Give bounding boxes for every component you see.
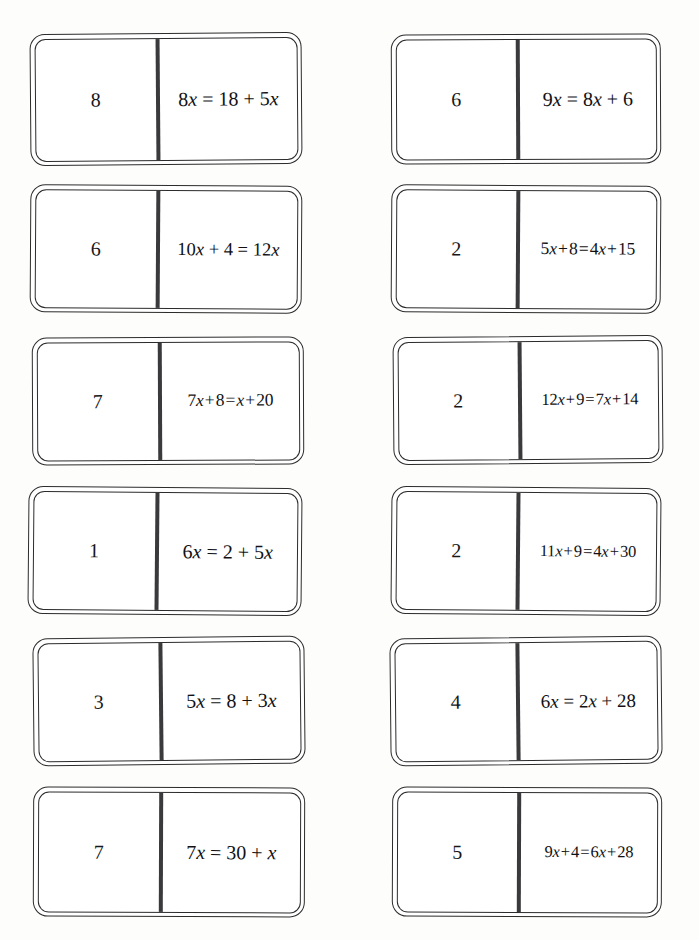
domino-equation-half: 5x = 8 + 3x [163,641,300,759]
equation-text: 9x + 4 = 6x + 28 [544,844,633,861]
domino-answer-half: 7 [38,792,159,911]
domino-answer-half: 7 [37,343,158,461]
answer-value: 8 [91,88,101,111]
domino-tile[interactable]: 7 7x = 30 + x [33,787,305,918]
domino-equation-half: 12x + 9 = 7x + 14 [522,340,658,458]
domino-equation-half: 8x = 18 + 5x [160,37,297,159]
domino-answer-half: 8 [35,39,157,161]
equation-text: 9x = 8x + 6 [543,89,633,109]
equation-text: 11x + 9 = 4x + 30 [540,543,636,560]
domino-equation-half: 6x = 2 + 5x [159,492,297,610]
domino-answer-half: 2 [398,342,519,460]
domino-tile[interactable]: 5 9x + 4 = 6x + 28 [392,787,662,918]
domino-tile[interactable]: 7 7x + 8 = x + 20 [32,336,305,465]
equation-text: 10x + 4 = 12x [177,240,279,259]
answer-value: 5 [452,840,462,863]
domino-tile[interactable]: 6 10x + 4 = 12x [30,184,303,314]
answer-value: 6 [91,237,101,260]
domino-tile-body: 8 8x = 18 + 5x [34,36,298,161]
domino-equation-half: 7x + 8 = x + 20 [162,342,299,460]
domino-tile-body: 2 5x + 8 = 4x + 15 [395,189,657,310]
tile-column-left: 8 8x = 18 + 5x 6 10x + 4 = 12x [0,0,340,940]
equation-text: 5x + 8 = 4x + 15 [541,240,636,258]
domino-answer-half: 5 [397,792,517,911]
domino-tile[interactable]: 1 6x = 2 + 5x [27,486,302,616]
answer-value: 7 [94,840,104,863]
domino-answer-half: 2 [396,491,517,609]
domino-tile-body: 4 6x = 2x + 28 [394,640,658,762]
domino-tile-body: 6 10x + 4 = 12x [34,189,298,310]
domino-answer-half: 4 [395,643,517,761]
equation-text: 6x = 2x + 28 [541,690,637,710]
domino-tile[interactable]: 2 12x + 9 = 7x + 14 [393,335,664,465]
domino-tile[interactable]: 3 5x = 8 + 3x [32,636,305,767]
equation-text: 12x + 9 = 7x + 14 [541,391,638,408]
domino-tile[interactable]: 2 5x + 8 = 4x + 15 [391,184,662,314]
domino-equation-half: 6x = 2x + 28 [520,641,657,759]
answer-value: 3 [94,690,105,713]
answer-value: 1 [89,539,100,562]
domino-equation-half: 7x = 30 + x [163,792,300,911]
domino-answer-half: 3 [38,643,160,761]
tile-column-right: 6 9x = 8x + 6 2 5x + 8 = 4x + 15 [365,0,699,940]
domino-tile[interactable]: 2 11x + 9 = 4x + 30 [390,486,661,616]
domino-tile-body: 2 11x + 9 = 4x + 30 [395,490,657,611]
domino-tile[interactable]: 8 8x = 18 + 5x [29,32,302,166]
answer-value: 6 [451,88,461,111]
domino-answer-half: 2 [396,190,516,308]
domino-equation-half: 9x + 4 = 6x + 28 [521,792,657,911]
equation-text: 5x = 8 + 3x [186,690,277,711]
domino-tile-body: 5 9x + 4 = 6x + 28 [396,791,657,913]
answer-value: 7 [93,390,103,413]
domino-answer-half: 6 [396,40,516,160]
domino-tile-body: 7 7x = 30 + x [37,791,300,913]
domino-equation-half: 11x + 9 = 4x + 30 [520,492,656,610]
answer-value: 2 [451,539,462,562]
answer-value: 2 [451,237,461,260]
equation-text: 8x = 18 + 5x [178,88,278,109]
domino-tile-body: 7 7x + 8 = x + 20 [36,341,300,461]
equation-text: 7x = 30 + x [186,842,276,862]
domino-tile-body: 2 12x + 9 = 7x + 14 [397,339,659,460]
domino-tile-body: 3 5x = 8 + 3x [37,640,301,762]
worksheet-sheet: 8 8x = 18 + 5x 6 10x + 4 = 12x [0,0,699,940]
domino-equation-half: 10x + 4 = 12x [160,190,297,308]
domino-tile[interactable]: 4 6x = 2x + 28 [389,636,662,767]
domino-tile-body: 6 9x = 8x + 6 [395,38,657,160]
equation-text: 6x = 2 + 5x [183,541,274,562]
domino-equation-half: 9x = 8x + 6 [520,39,656,159]
domino-answer-half: 1 [33,491,156,609]
equation-text: 7x + 8 = x + 20 [187,392,273,410]
answer-value: 4 [451,690,462,713]
domino-tile[interactable]: 6 9x = 8x + 6 [391,33,662,164]
answer-value: 2 [453,389,463,412]
domino-tile-body: 1 6x = 2 + 5x [32,490,298,611]
domino-equation-half: 5x + 8 = 4x + 15 [520,190,656,308]
domino-answer-half: 6 [35,190,156,308]
